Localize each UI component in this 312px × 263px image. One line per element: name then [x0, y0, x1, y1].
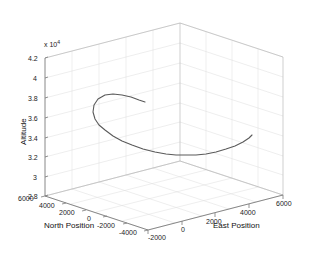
figure-3d-trajectory-plot: x 104 4.2 4 3.8 3.6 3.4 3.2 3 2.8 Altitu…	[0, 0, 312, 263]
axis-box-edges	[45, 23, 283, 196]
floor-grid	[45, 161, 283, 230]
altitude-tick-label: 4.2	[28, 55, 38, 62]
east-tick-label: -2000	[148, 234, 166, 241]
altitude-tick-label: 3.8	[28, 95, 38, 102]
north-tick-label: 2000	[59, 209, 75, 216]
trajectory-curve	[93, 94, 252, 155]
east-axis-title: East Position	[213, 222, 260, 230]
back-wall-right-grid	[180, 23, 283, 195]
north-tick-label: 6000	[18, 195, 34, 202]
altitude-tick-label: 3.6	[28, 115, 38, 122]
altitude-tick-label: 4	[33, 75, 37, 82]
altitude-tick-label: 3.4	[28, 135, 38, 142]
east-tick-label: 0	[181, 226, 185, 233]
exponent-power: 4	[57, 39, 60, 45]
altitude-axis-title: Altitude	[20, 118, 28, 145]
north-tick-label: 4000	[39, 202, 55, 209]
altitude-exponent-label: x 104	[44, 40, 60, 48]
north-axis-title: North Position	[44, 222, 94, 230]
north-tick-label: -4000	[119, 229, 137, 236]
east-tick-label: 6000	[276, 200, 292, 207]
exponent-prefix: x 10	[44, 41, 57, 48]
north-tick-label: -2000	[97, 222, 115, 229]
altitude-tick-label: 3.2	[28, 154, 38, 161]
altitude-tick-label: 3	[33, 174, 37, 181]
east-tick-label: 4000	[240, 209, 256, 216]
